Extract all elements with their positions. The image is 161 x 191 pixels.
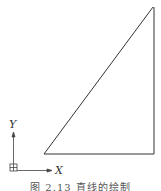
x-axis-label: X bbox=[55, 165, 63, 176]
triangle bbox=[44, 7, 154, 154]
drawing-canvas bbox=[0, 0, 161, 191]
x-arrow-icon bbox=[47, 169, 52, 172]
figure-caption: 图 2.13 直线的绘制 bbox=[0, 179, 161, 191]
hypotenuse-line bbox=[44, 7, 153, 154]
y-axis-label: Y bbox=[9, 119, 16, 130]
y-arrow-icon bbox=[12, 132, 15, 137]
